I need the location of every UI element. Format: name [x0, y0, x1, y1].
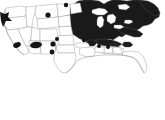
- marker-texas-panhandle-icon: [82, 38, 86, 42]
- filled-southern-patch-b: [122, 42, 133, 47]
- marker-north-dakota-icon: [64, 3, 68, 7]
- us-map-graphic: [0, 0, 165, 120]
- state-florida: [122, 51, 147, 73]
- marker-colorado-icon: [55, 37, 59, 41]
- state-southeast-inner-b: [113, 47, 122, 54]
- state-utah: [31, 27, 40, 41]
- gulf-coastline: [66, 55, 144, 73]
- state-kansas: [58, 35, 74, 45]
- state-idaho: [26, 6, 36, 27]
- state-south-dakota: [58, 15, 71, 27]
- state-minnesota-fragment: [70, 3, 82, 14]
- marker-oklahoma-icon: [106, 45, 110, 49]
- state-arkansas-white: [76, 43, 90, 48]
- marker-new-mexico-icon: [50, 50, 55, 55]
- marker-montana-icon: [45, 12, 50, 17]
- lake-michigan-shape: [97, 16, 104, 28]
- state-nebraska: [59, 26, 73, 36]
- state-oklahoma: [56, 45, 75, 53]
- marker-arizona-icon: [50, 41, 55, 46]
- state-north-dakota: [57, 4, 70, 17]
- state-wyoming: [37, 17, 59, 29]
- map-figure: United States distribution map: [0, 0, 165, 120]
- marker-kansas-icon: [97, 44, 101, 48]
- state-louisiana: [79, 47, 96, 57]
